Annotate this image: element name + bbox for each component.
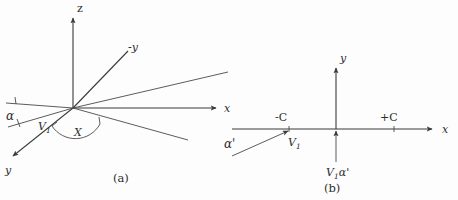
axis-y-label-b: y (339, 52, 347, 65)
axis-x-label: x (224, 102, 231, 115)
panel-b: x y -C +C α' V1 V1α' (b) (224, 52, 449, 195)
coordinate-diagram: z x -y y α X V1 (a) (0, 0, 458, 200)
axis-minus-y-line (73, 51, 128, 108)
angle-alpha-label: α (6, 109, 14, 123)
ray-lower-right (73, 108, 188, 140)
marker-minus-c-label: -C (275, 111, 287, 124)
marker-plus-c-label: +C (380, 111, 398, 124)
axis-minus-y-label: -y (128, 41, 139, 54)
axis-y-label: y (4, 164, 12, 177)
axis-x-label-b: x (442, 123, 449, 136)
caption-b: (b) (324, 181, 340, 195)
panel-a: z x -y y α X V1 (a) (4, 2, 231, 185)
angle-chi-label: X (73, 126, 83, 139)
figure-root: z x -y y α X V1 (a) (0, 0, 458, 200)
vector-v1-alpha-prime-label: V1α' (326, 166, 349, 181)
angle-alpha-prime-label: α' (224, 137, 235, 151)
vector-v1-label-a: V1 (38, 120, 51, 135)
vector-v1-label-b: V1 (288, 136, 301, 151)
vector-alpha-prime-arrow (232, 131, 288, 156)
ray-upper-right (73, 72, 228, 108)
axis-z-label: z (77, 2, 83, 15)
alpha-tick-upper (15, 97, 16, 104)
alpha-tick-lower (17, 119, 20, 127)
angle-chi-tick-right (99, 117, 100, 124)
caption-a: (a) (113, 171, 129, 185)
